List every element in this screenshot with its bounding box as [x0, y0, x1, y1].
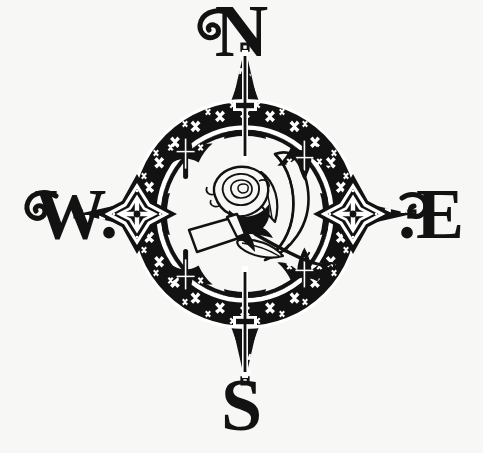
compass-star-body: [69, 38, 421, 390]
north-label: N: [0, 0, 483, 68]
south-label: S: [0, 368, 483, 442]
east-label: .E: [398, 178, 483, 250]
west-label: W.: [8, 178, 118, 250]
compass-rose-illustration: N S W. .E: [0, 0, 483, 453]
